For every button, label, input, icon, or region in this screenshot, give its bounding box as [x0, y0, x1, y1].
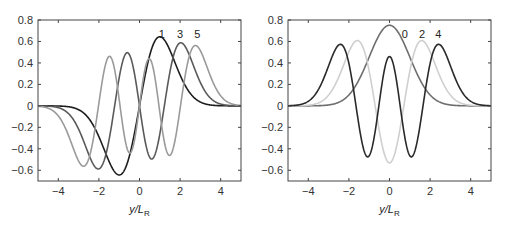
- x-tick-label: −2: [343, 185, 356, 197]
- y-tick-label: −0.2: [11, 121, 33, 133]
- curve-label-3: 3: [177, 28, 183, 40]
- curve-label-0: 0: [402, 28, 408, 40]
- x-tick-label: 2: [177, 185, 183, 197]
- y-tick-label: 0.6: [18, 35, 33, 47]
- y-tick-label: 0.4: [268, 57, 283, 69]
- x-axis-label: y/LR: [378, 203, 400, 218]
- y-tick-label: −0.4: [261, 143, 283, 155]
- right-panel-even-modes: 024−4−2024−0.6−0.4−0.200.20.40.60.8y/LR: [261, 14, 491, 218]
- curve-mode-0: [288, 25, 491, 106]
- y-tick-label: 0.2: [268, 78, 283, 90]
- curve-mode-2: [288, 41, 491, 163]
- curve-mode-5: [38, 46, 241, 167]
- y-tick-label: 0.2: [18, 78, 33, 90]
- curve-mode-4: [288, 44, 491, 157]
- curve-label-4: 4: [435, 28, 441, 40]
- x-tick-label: 0: [386, 185, 392, 197]
- curve-label-1: 1: [159, 28, 165, 40]
- axes-frame: [288, 20, 491, 181]
- y-tick-label: −0.2: [261, 121, 283, 133]
- hermite-mode-figure: 135−4−2024−0.6−0.4−0.200.20.40.60.8y/LR …: [0, 0, 505, 228]
- x-tick-label: 2: [427, 185, 433, 197]
- y-tick-label: 0: [277, 100, 283, 112]
- y-tick-label: 0.6: [268, 35, 283, 47]
- y-tick-label: 0.4: [18, 57, 33, 69]
- y-tick-label: −0.6: [261, 164, 283, 176]
- x-tick-label: −2: [93, 185, 106, 197]
- y-tick-label: −0.4: [11, 143, 33, 155]
- x-tick-label: 4: [468, 185, 474, 197]
- x-axis-label: y/LR: [128, 203, 150, 218]
- y-tick-label: −0.6: [11, 164, 33, 176]
- curve-label-5: 5: [194, 28, 200, 40]
- left-panel-odd-modes: 135−4−2024−0.6−0.4−0.200.20.40.60.8y/LR: [11, 14, 241, 218]
- y-tick-label: 0.8: [268, 14, 283, 26]
- curve-label-2: 2: [419, 28, 425, 40]
- x-tick-label: −4: [52, 185, 65, 197]
- x-tick-label: 4: [218, 185, 224, 197]
- x-tick-label: −4: [302, 185, 315, 197]
- y-tick-label: 0.8: [18, 14, 33, 26]
- x-tick-label: 0: [136, 185, 142, 197]
- y-tick-label: 0: [27, 100, 33, 112]
